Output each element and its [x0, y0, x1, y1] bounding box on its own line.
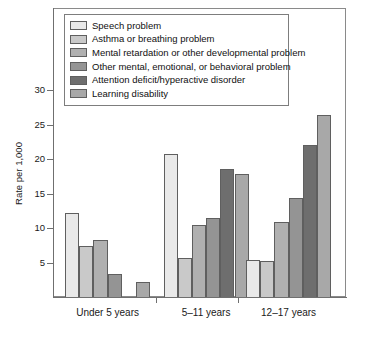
legend-label: Learning disability [92, 89, 168, 99]
legend-label: Mental retardation or other developmenta… [92, 48, 305, 58]
bar [108, 274, 122, 297]
legend-swatch-icon [70, 76, 87, 85]
legend-swatch-icon [70, 35, 87, 44]
chart-canvas: 51015202530 Rate per 1,000 Under 5 years… [0, 0, 369, 346]
legend-label: Attention deficit/hyperactive disorder [92, 75, 245, 85]
legend-item: Other mental, emotional, or behavioral p… [70, 60, 283, 74]
legend-label: Asthma or breathing problem [92, 34, 215, 44]
bar [192, 225, 206, 297]
legend-item: Learning disability [70, 87, 283, 101]
bar [136, 282, 150, 297]
bar [93, 240, 107, 297]
x-group-label-3: 12–17 years [229, 307, 349, 318]
bar [79, 246, 93, 297]
bar [260, 261, 274, 297]
bar [178, 258, 192, 297]
legend-item: Speech problem [70, 19, 283, 33]
bar [303, 145, 317, 297]
bar [220, 169, 234, 297]
bar [206, 218, 220, 297]
legend-item: Asthma or breathing problem [70, 33, 283, 47]
legend-label: Speech problem [92, 21, 161, 31]
bar [246, 260, 260, 297]
bar [65, 213, 79, 297]
bar [274, 222, 288, 297]
legend-label: Other mental, emotional, or behavioral p… [92, 62, 291, 72]
bar [317, 115, 331, 297]
legend-swatch-icon [70, 21, 87, 30]
legend-swatch-icon [70, 89, 87, 98]
legend-item: Mental retardation or other developmenta… [70, 46, 283, 60]
legend-swatch-icon [70, 48, 87, 57]
x-tick-1 [238, 298, 239, 303]
legend-swatch-icon [70, 62, 87, 71]
chart-legend: Speech problemAsthma or breathing proble… [64, 14, 289, 106]
bar [164, 154, 178, 297]
x-tick-0 [156, 298, 157, 303]
bar [289, 198, 303, 297]
legend-item: Attention deficit/hyperactive disorder [70, 73, 283, 87]
